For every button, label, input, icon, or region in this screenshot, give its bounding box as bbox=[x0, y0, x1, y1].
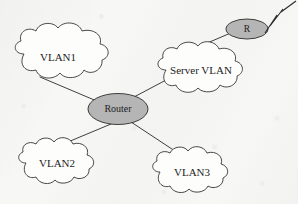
wan-tail-line bbox=[281, 1, 296, 12]
node-label-router: Router bbox=[104, 103, 132, 114]
link-vlan1-router bbox=[40, 77, 99, 102]
node-vlan1[interactable]: VLAN1 bbox=[15, 23, 108, 78]
node-label-vlan1: VLAN1 bbox=[40, 51, 76, 63]
node-label-vlan3: VLAN3 bbox=[174, 166, 211, 178]
node-label-vlan2: VLAN2 bbox=[39, 157, 75, 169]
node-vlan2[interactable]: VLAN2 bbox=[19, 138, 94, 184]
node-vlan3[interactable]: VLAN3 bbox=[153, 147, 228, 193]
link-router-server-vlan bbox=[134, 79, 168, 97]
lightning-bolt-icon bbox=[265, 9, 283, 33]
node-label-server-vlan: Server VLAN bbox=[170, 64, 232, 76]
topology-canvas: VLAN1 Server VLAN Router R VLAN2 bbox=[0, 0, 298, 204]
node-label-r-device: R bbox=[244, 24, 251, 34]
node-server-vlan[interactable]: Server VLAN bbox=[158, 42, 242, 93]
node-r-device[interactable]: R bbox=[226, 19, 268, 39]
wan-lightning-bolt-icon bbox=[265, 1, 296, 33]
network-diagram: VLAN1 Server VLAN Router R VLAN2 bbox=[0, 0, 298, 204]
node-router[interactable]: Router bbox=[88, 94, 148, 125]
